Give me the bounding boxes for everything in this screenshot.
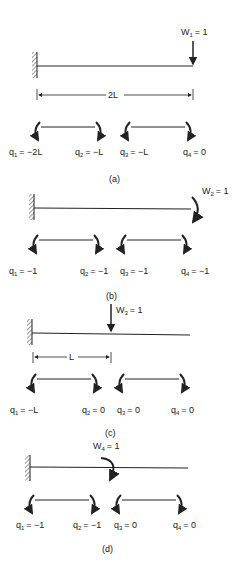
load-label: W4= 1	[93, 441, 120, 452]
element-1-moments	[33, 235, 98, 253]
panel-c: W3= 1 L q1= −L q2= 0 q3= 0 q4= 0 (c)	[10, 304, 194, 438]
load-label: W3= 1	[116, 305, 143, 316]
q3-label: q3= −1	[120, 266, 148, 277]
beam	[30, 467, 188, 468]
q1-label: q1= −1	[16, 520, 44, 531]
dimension-label: 2L	[108, 90, 118, 100]
q4-label: q4= −1	[181, 266, 209, 277]
q1-label: q1= −2L	[9, 147, 42, 158]
panel-b: W2= 1 q1= −1 q2= −1 q3= −1 q4= −1 (b)	[9, 186, 229, 301]
element-1-moments	[35, 122, 100, 140]
q4-label: q4= 0	[173, 520, 196, 531]
load-label: W2= 1	[202, 186, 229, 197]
fixed-support-icon	[27, 319, 32, 345]
beam	[32, 333, 190, 335]
caption: (c)	[105, 428, 116, 438]
q1-label: q1= −1	[9, 266, 37, 277]
fixed-support-icon	[25, 455, 30, 481]
element-2-moments	[121, 235, 186, 253]
q3-label: q3= 0	[114, 520, 137, 531]
element-1-moments	[31, 374, 96, 392]
fixed-support-icon	[32, 52, 37, 78]
caption: (d)	[102, 544, 113, 554]
load-label: W1= 1	[181, 27, 208, 38]
q2-label: q2= 0	[82, 405, 105, 416]
cantilever-diagram: W1= 1 2L q1= −2L q2= −L q3= −L q4= 0 (a)…	[0, 0, 237, 567]
moment-arrow-icon	[192, 197, 198, 222]
fixed-support-icon	[29, 194, 34, 220]
q4-label: q4= 0	[183, 147, 206, 158]
dimension-label: L	[69, 352, 74, 362]
q4-label: q4= 0	[171, 405, 194, 416]
element-2-moments	[116, 495, 181, 513]
panel-a: W1= 1 2L q1= −2L q2= −L q3= −L q4= 0 (a)	[9, 27, 208, 184]
panel-d: W4= 1 q1= −1 q2= −1 q3= 0 q4= 0 (d)	[16, 441, 196, 554]
q1-label: q1= −L	[10, 405, 38, 416]
caption: (b)	[106, 291, 117, 301]
q3-label: q3= −L	[120, 147, 148, 158]
q2-label: q2= −L	[75, 147, 103, 158]
caption: (a)	[109, 174, 120, 184]
q2-label: q2= −1	[80, 266, 108, 277]
element-1-moments	[29, 495, 94, 513]
q3-label: q3= 0	[117, 405, 140, 416]
moment-arrow-icon	[101, 458, 113, 480]
element-2-moments	[125, 122, 190, 140]
element-2-moments	[119, 374, 184, 392]
beam	[34, 208, 191, 209]
q2-label: q2= −1	[73, 520, 101, 531]
